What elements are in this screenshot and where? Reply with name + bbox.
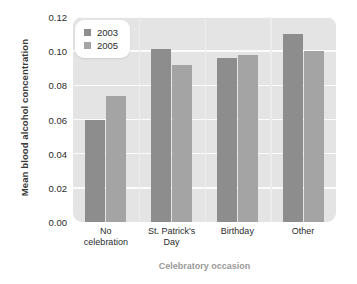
x-axis-tick-label: Birthday xyxy=(205,226,271,237)
bar-2003-birthday xyxy=(217,58,237,222)
legend-item-2003: 2003 xyxy=(84,26,118,39)
x-axis-tick-label-line: No xyxy=(73,226,139,237)
y-axis-tick-label: 0.00 xyxy=(35,217,67,228)
legend-item-2005: 2005 xyxy=(84,39,118,52)
x-axis-title: Celebratory occasion xyxy=(73,261,336,271)
x-axis-tick-labels: NocelebrationSt. Patrick'sDayBirthdayOth… xyxy=(73,226,336,260)
legend: 2003 2005 xyxy=(75,20,130,58)
y-axis-title: Mean blood alcohol concentration xyxy=(19,8,30,228)
x-axis-tick-label-line: Birthday xyxy=(205,226,271,237)
bar-2005-st-patrick-s-day xyxy=(172,65,192,222)
x-axis-tick-label: Nocelebration xyxy=(73,226,139,248)
legend-swatch-2005-icon xyxy=(84,42,91,49)
legend-swatch-2003-icon xyxy=(84,29,91,36)
y-axis-tick-labels: 0.000.020.040.060.080.100.12 xyxy=(33,17,67,222)
y-axis-tick-label: 0.04 xyxy=(35,148,67,159)
bar-chart-figure: Mean blood alcohol concentration 0.000.0… xyxy=(0,0,357,284)
x-axis-tick-label-line: Day xyxy=(139,237,205,248)
y-axis-tick-label: 0.06 xyxy=(35,114,67,125)
x-axis-tick-label: St. Patrick'sDay xyxy=(139,226,205,248)
legend-label-2005: 2005 xyxy=(97,40,118,51)
x-axis-tick-label-line: St. Patrick's xyxy=(139,226,205,237)
legend-label-2003: 2003 xyxy=(97,27,118,38)
bar-2003-st-patrick-s-day xyxy=(151,49,171,222)
x-axis-tick-label-line: Other xyxy=(270,226,336,237)
y-axis-tick-label: 0.08 xyxy=(35,80,67,91)
bar-2003-no-celebration xyxy=(85,120,105,223)
bar-2005-no-celebration xyxy=(106,96,126,222)
y-axis-tick-label: 0.10 xyxy=(35,46,67,57)
bar-2005-birthday xyxy=(238,55,258,222)
y-axis-tick-label: 0.02 xyxy=(35,182,67,193)
x-axis-tick-label: Other xyxy=(270,226,336,237)
bar-2003-other xyxy=(283,34,303,222)
y-axis-tick-label: 0.12 xyxy=(35,12,67,23)
x-axis-tick-label-line: celebration xyxy=(73,237,139,248)
bar-2005-other xyxy=(304,51,324,222)
